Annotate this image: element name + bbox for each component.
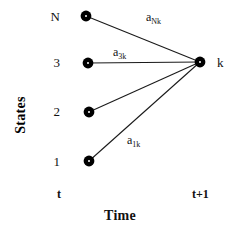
edge-label-a-Nk-subscript: Nk bbox=[151, 17, 161, 26]
x-axis-title: Time bbox=[104, 209, 136, 223]
x-tick-t-plus-1: t+1 bbox=[192, 188, 209, 200]
node-label-k: k bbox=[217, 56, 224, 69]
y-axis-title: States bbox=[13, 96, 29, 134]
edge-label-a-1k-subscript: 1k bbox=[132, 140, 140, 149]
node-3[interactable] bbox=[83, 58, 94, 69]
edge-3-to-k bbox=[88, 62, 200, 63]
y-axis-title-wrapper: States bbox=[4, 60, 38, 170]
node-1[interactable] bbox=[84, 156, 95, 167]
state-label-1: 1 bbox=[42, 155, 60, 168]
edge-label-a-3k-subscript: 3k bbox=[118, 52, 126, 61]
node-k[interactable] bbox=[195, 57, 206, 68]
edge-group bbox=[86, 16, 200, 161]
edge-N-to-k bbox=[86, 16, 200, 62]
edge-2-to-k bbox=[89, 62, 200, 112]
state-label-N: N bbox=[42, 10, 60, 23]
source-node-group bbox=[81, 11, 95, 167]
state-label-3: 3 bbox=[42, 56, 60, 69]
node-N[interactable] bbox=[81, 11, 92, 22]
x-tick-t: t bbox=[57, 188, 61, 200]
edge-label-a-3k: a3k bbox=[113, 46, 126, 58]
edge-label-a-Nk: aNk bbox=[146, 11, 161, 23]
edge-label-a-1k: a1k bbox=[127, 134, 140, 146]
node-2[interactable] bbox=[84, 107, 95, 118]
state-label-2: 2 bbox=[42, 105, 60, 118]
edge-1-to-k bbox=[89, 62, 200, 161]
trellis-diagram-figure: N 3 2 1 k aNk a3k a1k t t+1 States Time bbox=[0, 0, 240, 228]
